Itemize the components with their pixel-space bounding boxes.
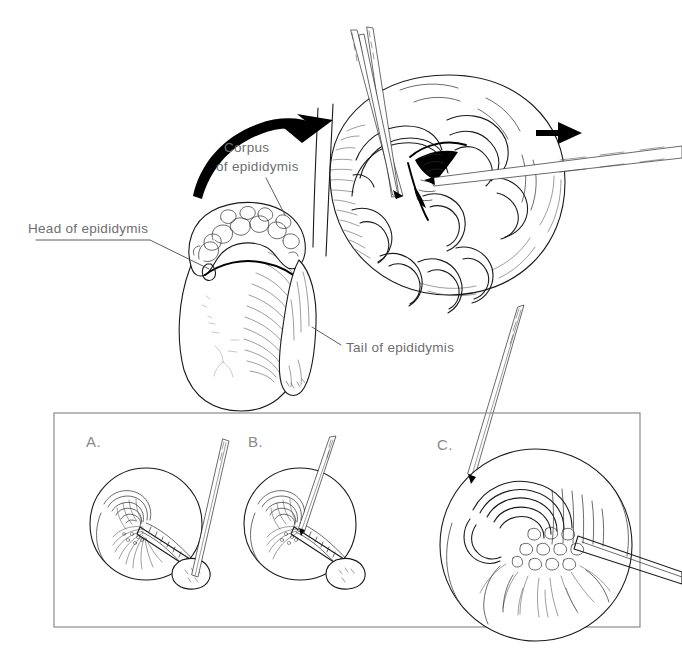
tail-of-epididymis-text: Tail of epididymis [346,340,454,355]
figure-root: Head of epididymis Corpus of epididymis … [0,0,682,665]
magnified-capsule-outline [330,75,565,295]
panel-c-needle-center-line [472,310,521,475]
rotation-arrow [193,114,333,199]
epididymis-magnified-group [330,75,565,313]
panel-a-letter: A. [86,433,101,450]
label-head-of-epididymis: Head of epididymis [28,221,209,269]
panel-c-needle-shaft [468,305,524,476]
medical-illustration: Head of epididymis Corpus of epididymis … [0,0,682,665]
panel-b-letter: B. [248,433,263,450]
direction-arrow-head [558,122,582,144]
head-of-epididymis-leader [36,240,209,269]
panel-a-tail-bulge [172,558,210,589]
tail-of-epididymis-leader [312,327,341,345]
panel-c-letter: C. [437,436,453,453]
panel-a: A. [86,433,229,589]
corpus-of-epididymis-text-line1: Corpus [224,140,269,155]
label-tail-of-epididymis: Tail of epididymis [312,327,454,355]
head-of-epididymis-text: Head of epididymis [28,221,148,236]
panel-b: B. [244,433,365,589]
panel-c-needle [468,305,524,476]
rotation-arrow-head [284,114,333,143]
corpus-of-epididymis-text-line2: of epididymis [216,159,299,174]
panel-b-tail-bulge [326,558,365,589]
